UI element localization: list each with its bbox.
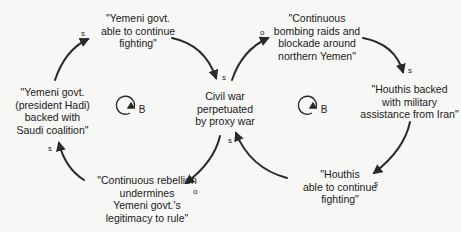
link-houthis-able-to-civil-war xyxy=(236,133,287,178)
node-continuous-bombing: "Continuous bombing raids and blockade a… xyxy=(262,12,372,62)
node-yemeni-govt-able: "Yemeni govt. able to continue fighting" xyxy=(83,12,193,50)
polarity-civil-war-to-rebellion: o xyxy=(193,187,197,196)
node-houthis-backed-iran: "Houthis backed with military assistance… xyxy=(352,83,461,121)
loop-label-left-balancing: B xyxy=(132,100,152,120)
link-houthis-iran-to-houthis-able xyxy=(374,122,410,173)
node-continuous-rebellion: "Continuous rebellion undermines Yemeni … xyxy=(82,174,212,224)
polarity-saudi-to-able: s xyxy=(81,29,85,38)
node-civil-war-center: Civil war perpetuated by proxy war xyxy=(180,90,270,128)
link-rebellion-to-saudi xyxy=(59,143,84,180)
polarity-civil-war-to-bombing: o xyxy=(260,28,264,37)
polarity-iran-to-houthis-able: s xyxy=(374,179,378,188)
polarity-able-to-civil-war: s xyxy=(222,73,226,82)
polarity-bombing-to-iran: s xyxy=(408,66,412,75)
node-yemeni-govt-saudi: "Yemeni govt. (president Hadi) backed wi… xyxy=(0,86,105,136)
polarity-houthis-able-to-civil-war: s xyxy=(228,136,232,145)
loop-label-right-balancing: B xyxy=(314,100,334,120)
polarity-rebellion-to-saudi: s xyxy=(48,144,52,153)
